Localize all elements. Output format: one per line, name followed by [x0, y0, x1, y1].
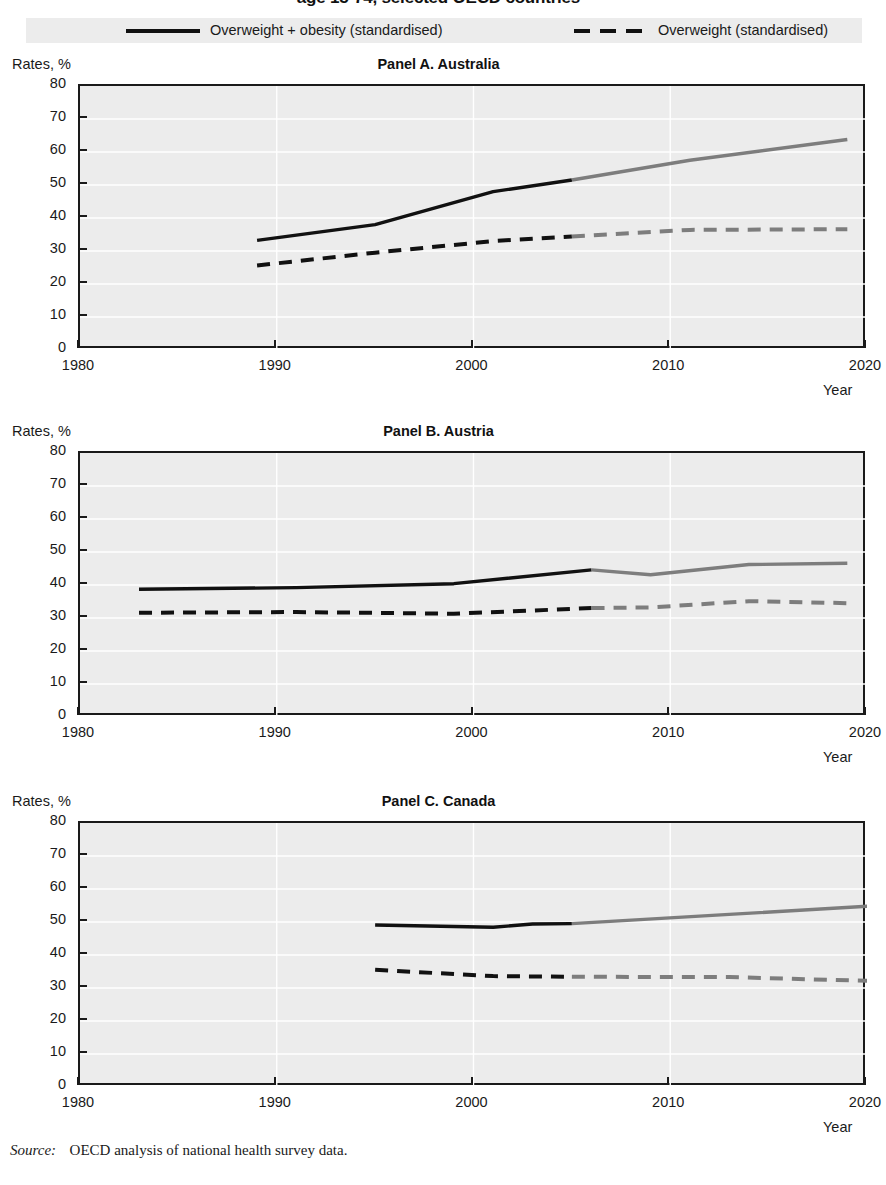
x-axis-tick-mark: [667, 707, 669, 715]
y-axis-tick-mark: [78, 582, 87, 584]
y-axis-tick-mark: [78, 215, 87, 217]
x-axis-tick-label: 2000: [437, 1095, 507, 1110]
panel-c-canvas: [80, 823, 867, 1087]
x-axis-tick-mark: [864, 707, 866, 715]
series-line-solid-projected: [592, 563, 848, 575]
x-axis-tick-mark: [667, 1077, 669, 1085]
chart-legend: Overweight + obesity (standardised) Over…: [26, 18, 862, 43]
source-note: Source: OECD analysis of national health…: [10, 1142, 347, 1159]
y-axis-tick-label: 70: [4, 476, 66, 491]
y-axis-tick-mark: [78, 1018, 87, 1020]
source-label: Source:: [10, 1142, 56, 1158]
x-axis-tick-label: 2010: [633, 358, 703, 373]
x-axis-tick-mark: [274, 707, 276, 715]
series-line-dashed-projected: [572, 229, 847, 236]
y-axis-tick-mark: [78, 985, 87, 987]
y-axis-tick-mark: [78, 314, 87, 316]
y-axis-tick-label: 70: [4, 109, 66, 124]
y-axis-tick-label: 10: [4, 1044, 66, 1059]
x-axis-tick-label: 1980: [43, 358, 113, 373]
y-axis-tick-mark: [78, 248, 87, 250]
y-axis-tick-label: 50: [4, 542, 66, 557]
y-axis-tick-label: 40: [4, 945, 66, 960]
y-axis-tick-label: 10: [4, 674, 66, 689]
y-axis-tick-mark: [78, 919, 87, 921]
y-axis-tick-label: 20: [4, 641, 66, 656]
panel-b-title: Panel B. Austria: [0, 423, 877, 439]
y-axis-tick-mark: [78, 549, 87, 551]
x-axis-tick-mark: [274, 340, 276, 348]
legend-solid-line-icon: [126, 18, 200, 43]
y-axis-tick-label: 0: [4, 1077, 66, 1092]
series-line-dashed-observed: [139, 608, 592, 614]
legend-label-overweight-obesity: Overweight + obesity (standardised): [210, 23, 443, 38]
y-axis-tick-label: 80: [4, 76, 66, 91]
y-axis-tick-mark: [78, 1051, 87, 1053]
y-axis-tick-label: 40: [4, 575, 66, 590]
y-axis-tick-mark: [78, 116, 87, 118]
legend-dashed-line-icon: [574, 18, 648, 43]
series-line-solid-projected: [572, 139, 847, 180]
y-axis-tick-mark: [78, 648, 87, 650]
y-axis-tick-label: 20: [4, 274, 66, 289]
x-axis-tick-label: 2020: [830, 1095, 886, 1110]
y-axis-tick-label: 40: [4, 208, 66, 223]
figure-title: age 15-74, selected OECD countries: [0, 0, 877, 8]
x-axis-tick-mark: [471, 340, 473, 348]
panel-c-plot-area: [78, 821, 865, 1085]
y-axis-tick-mark: [78, 886, 87, 888]
y-axis-tick-label: 0: [4, 340, 66, 355]
y-axis-tick-mark: [78, 681, 87, 683]
y-axis-tick-label: 10: [4, 307, 66, 322]
legend-item-overweight-obesity: Overweight + obesity (standardised): [126, 18, 443, 43]
series-line-solid-projected: [572, 905, 867, 923]
legend-item-overweight: Overweight (standardised): [574, 18, 828, 43]
source-text: OECD analysis of national health survey …: [70, 1142, 348, 1158]
y-axis-tick-label: 60: [4, 509, 66, 524]
panel-b-plot-area: [78, 451, 865, 715]
y-axis-tick-mark: [78, 952, 87, 954]
x-axis-tick-label: 1990: [240, 725, 310, 740]
x-axis-tick-label: 2000: [437, 725, 507, 740]
x-axis-tick-label: 2020: [830, 358, 886, 373]
series-line-solid-observed: [257, 180, 572, 240]
y-axis-tick-label: 0: [4, 707, 66, 722]
x-axis-tick-label: 1990: [240, 1095, 310, 1110]
x-axis-tick-label: 2000: [437, 358, 507, 373]
y-axis-tick-mark: [78, 149, 87, 151]
y-axis-tick-mark: [78, 182, 87, 184]
panel-a-canvas: [80, 86, 867, 350]
x-axis-tick-label: 2010: [633, 725, 703, 740]
y-axis-tick-label: 50: [4, 175, 66, 190]
x-axis-tick-label: 2020: [830, 725, 886, 740]
y-axis-tick-label: 50: [4, 912, 66, 927]
x-axis-tick-mark: [864, 1077, 866, 1085]
x-axis-tick-mark: [667, 340, 669, 348]
x-axis-tick-mark: [77, 340, 79, 348]
x-axis-title: Year: [823, 749, 852, 765]
series-line-solid-observed: [139, 570, 592, 589]
y-axis-tick-label: 30: [4, 241, 66, 256]
y-axis-tick-label: 30: [4, 978, 66, 993]
series-line-dashed-projected: [592, 601, 848, 608]
y-axis-tick-mark: [78, 281, 87, 283]
x-axis-tick-label: 2010: [633, 1095, 703, 1110]
panel-a-title: Panel A. Australia: [0, 56, 877, 72]
x-axis-tick-mark: [864, 340, 866, 348]
y-axis-tick-label: 30: [4, 608, 66, 623]
panel-a-plot-area: [78, 84, 865, 348]
legend-label-overweight: Overweight (standardised): [658, 23, 828, 38]
x-axis-tick-label: 1990: [240, 358, 310, 373]
y-axis-tick-mark: [78, 615, 87, 617]
x-axis-tick-mark: [77, 707, 79, 715]
series-line-dashed-projected: [572, 977, 867, 982]
y-axis-tick-mark: [78, 516, 87, 518]
x-axis-tick-label: 1980: [43, 725, 113, 740]
y-axis-tick-label: 80: [4, 443, 66, 458]
y-axis-tick-label: 60: [4, 142, 66, 157]
panel-b-canvas: [80, 453, 867, 717]
y-axis-tick-label: 20: [4, 1011, 66, 1026]
x-axis-title: Year: [823, 1119, 852, 1135]
y-axis-tick-label: 80: [4, 813, 66, 828]
y-axis-tick-mark: [78, 483, 87, 485]
